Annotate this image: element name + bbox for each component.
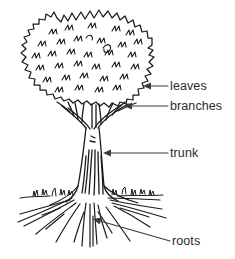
label-roots: roots bbox=[172, 235, 200, 248]
label-leaves: leaves bbox=[170, 80, 207, 93]
arrowhead-roots bbox=[93, 218, 102, 225]
leaf-marks bbox=[32, 23, 142, 92]
leader-lines bbox=[93, 83, 170, 242]
label-branches: branches bbox=[170, 100, 222, 113]
leader-line-trunk bbox=[103, 150, 168, 157]
tree-illustration bbox=[0, 0, 235, 259]
canopy-outline bbox=[21, 10, 154, 107]
label-trunk: trunk bbox=[170, 147, 198, 160]
ground-line bbox=[20, 187, 163, 198]
leader-line-branches bbox=[124, 103, 168, 110]
branches bbox=[57, 102, 136, 142]
tree-diagram: leaves branches trunk roots bbox=[0, 0, 235, 259]
arrowhead-trunk bbox=[103, 150, 111, 157]
leader-line-leaves bbox=[143, 83, 168, 90]
